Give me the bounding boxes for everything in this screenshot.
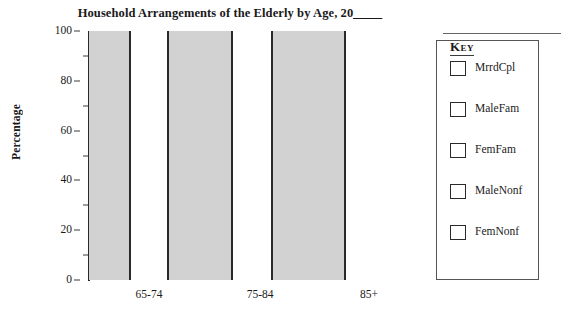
legend-swatch-icon	[450, 225, 466, 240]
y-axis-tick-label: 60	[61, 125, 73, 137]
x-axis-tick-labels: 65-7475-8485+	[89, 288, 400, 308]
y-axis-tick-label: 0	[66, 274, 72, 286]
legend-item[interactable]: MaleFam	[450, 101, 570, 142]
legend-swatch-icon	[450, 61, 466, 76]
legend-item-label: MaleNonf	[475, 183, 522, 198]
y-axis-tick-mark	[74, 31, 80, 32]
legend-item[interactable]: FemFam	[450, 142, 570, 183]
legend-swatch-icon	[450, 184, 466, 199]
bar-segment	[232, 31, 272, 280]
legend-swatch-icon	[450, 102, 466, 117]
legend-item[interactable]: FemNonf	[450, 224, 570, 265]
y-axis-tick-mark	[74, 280, 80, 281]
y-axis-tick-labels: 020406080100	[40, 31, 80, 280]
chart-plot-region: Percentage 020406080100 65-7475-8485+	[0, 0, 420, 318]
legend-item-label: MaleFam	[475, 101, 519, 116]
legend-item-label: MrrdCpl	[475, 60, 515, 75]
legend-title: Key	[450, 40, 474, 56]
plot-area	[89, 31, 400, 280]
y-axis-tick-mark	[74, 130, 80, 131]
legend-item-label: FemNonf	[475, 224, 519, 239]
y-axis-tick-mark	[74, 180, 80, 181]
bar-segment	[130, 31, 168, 280]
legend-top-rule	[443, 33, 561, 34]
legend-item-label: FemFam	[475, 142, 516, 157]
bar-segment	[345, 31, 400, 280]
y-axis-tick-label: 40	[61, 175, 73, 187]
legend-swatch-icon	[450, 143, 466, 158]
bar-segment	[168, 31, 232, 280]
legend-item[interactable]: MaleNonf	[450, 183, 570, 224]
y-axis-tick-label: 100	[55, 25, 72, 37]
y-axis-tick-mark	[74, 80, 80, 81]
bar-segment	[272, 31, 345, 280]
bar-segment	[89, 31, 130, 280]
y-axis-tick-label: 80	[61, 75, 73, 87]
y-axis-tick-label: 20	[61, 224, 73, 236]
legend-items: MrrdCplMaleFamFemFamMaleNonfFemNonf	[450, 60, 570, 265]
legend-item[interactable]: MrrdCpl	[450, 60, 570, 101]
x-axis-tick-label: 85+	[360, 288, 378, 300]
x-axis-tick-label: 65-74	[136, 288, 163, 300]
y-axis-tick-mark	[74, 230, 80, 231]
x-axis-tick-label: 75-84	[247, 288, 274, 300]
y-axis-label: Percentage	[10, 104, 26, 160]
